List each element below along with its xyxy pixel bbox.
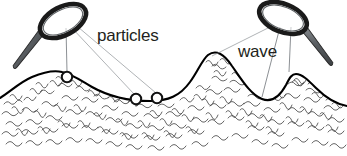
particle-2 (131, 94, 141, 104)
label-wave: wave (237, 42, 277, 61)
wave-particles-diagram: particles wave (0, 0, 347, 156)
water-texture (0, 50, 347, 156)
label-particles: particles (97, 26, 159, 45)
diagram-canvas: particles wave (0, 0, 347, 156)
particle-3 (152, 93, 162, 103)
leader-right-to-trough (262, 27, 280, 97)
particle-1 (62, 72, 72, 82)
